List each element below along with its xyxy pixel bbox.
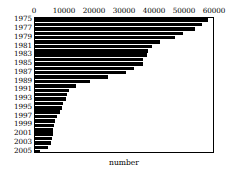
table-row <box>35 27 215 31</box>
table-row <box>35 128 215 132</box>
x-axis-title: number <box>34 158 214 168</box>
table-row <box>35 106 215 110</box>
y-tick-label: 1977 <box>14 24 32 32</box>
bar <box>35 84 76 88</box>
table-row <box>35 40 215 44</box>
bar <box>35 97 66 101</box>
bar <box>35 49 148 53</box>
table-row <box>35 141 215 145</box>
y-tick-label: 1979 <box>14 33 32 41</box>
table-row <box>35 71 215 75</box>
bar <box>35 115 57 119</box>
bar <box>35 150 40 154</box>
x-axis-tick-labels: 0100002000030000400005000060000 <box>0 6 236 17</box>
bar <box>35 146 48 150</box>
table-row <box>35 23 215 27</box>
table-row <box>35 132 215 136</box>
bar <box>35 32 183 36</box>
table-row <box>35 124 215 128</box>
bar <box>35 40 160 44</box>
bar <box>35 23 202 27</box>
table-row <box>35 119 215 123</box>
bar <box>35 102 63 106</box>
x-tick-label: 30000 <box>113 6 135 15</box>
x-tick-label: 50000 <box>173 6 195 15</box>
bar <box>35 137 52 141</box>
bar <box>35 45 152 49</box>
table-row <box>35 102 215 106</box>
x-tick-label: 40000 <box>143 6 165 15</box>
bar <box>35 89 69 93</box>
bar <box>35 132 53 136</box>
bar <box>35 75 108 79</box>
table-row <box>35 58 215 62</box>
bar <box>35 18 208 22</box>
table-row <box>35 62 215 66</box>
bar <box>35 110 60 114</box>
y-tick-label: 1987 <box>14 68 32 76</box>
table-row <box>35 150 215 154</box>
bar <box>35 106 62 110</box>
bar <box>35 141 51 145</box>
table-row <box>35 49 215 53</box>
bar <box>35 67 134 71</box>
x-tick-label: 10000 <box>53 6 75 15</box>
bar <box>35 62 143 66</box>
bars-layer <box>35 18 213 152</box>
table-row <box>35 93 215 97</box>
table-row <box>35 36 215 40</box>
plot-area <box>34 17 214 153</box>
table-row <box>35 146 215 150</box>
table-row <box>35 110 215 114</box>
table-row <box>35 75 215 79</box>
bar <box>35 36 175 40</box>
table-row <box>35 84 215 88</box>
table-row <box>35 89 215 93</box>
table-row <box>35 53 215 57</box>
bar <box>35 27 195 31</box>
bar <box>35 80 90 84</box>
y-tick-label: 1993 <box>14 94 32 102</box>
bar <box>35 124 54 128</box>
y-tick-label: 1985 <box>14 59 32 67</box>
bar <box>35 71 126 75</box>
y-tick-label: 1975 <box>14 15 32 23</box>
x-tick-label: 60000 <box>203 6 225 15</box>
bar <box>35 119 55 123</box>
table-row <box>35 18 215 22</box>
y-tick-label: 2003 <box>14 138 32 146</box>
table-row <box>35 115 215 119</box>
table-row <box>35 45 215 49</box>
y-tick-label: 2005 <box>14 147 32 155</box>
table-row <box>35 97 215 101</box>
x-tick-label: 20000 <box>83 6 105 15</box>
table-row <box>35 80 215 84</box>
table-row <box>35 32 215 36</box>
bar <box>35 93 67 97</box>
y-axis-tick-labels: 1975197719791981198319851987198919911993… <box>0 17 33 153</box>
table-row <box>35 137 215 141</box>
x-tick-label: 0 <box>32 6 36 15</box>
bar <box>35 128 53 132</box>
bar <box>35 58 143 62</box>
bar-chart: 0100002000030000400005000060000 19751977… <box>0 0 236 177</box>
bar <box>35 53 147 57</box>
table-row <box>35 67 215 71</box>
y-tick-label: 1995 <box>14 103 32 111</box>
